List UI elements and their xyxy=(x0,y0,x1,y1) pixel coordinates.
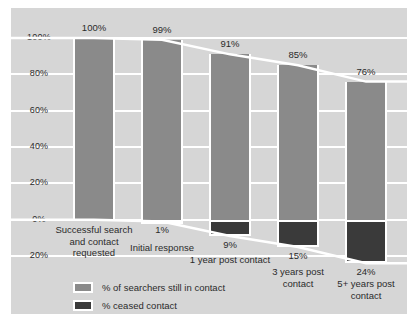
legend-label: % of searchers still in contact xyxy=(102,282,225,293)
bar-segment-ceased-contact[interactable] xyxy=(277,220,319,247)
legend-swatch xyxy=(73,300,93,311)
legend-label: % ceased contact xyxy=(102,300,177,311)
bar-value-label-in-contact: 100% xyxy=(64,22,124,33)
bar-value-label-ceased-contact: 1% xyxy=(132,224,192,235)
bar-segment-in-contact[interactable] xyxy=(209,54,251,219)
x-axis-category-label: Initial response xyxy=(120,242,204,254)
chart-legend: % of searchers still in contact% ceased … xyxy=(73,280,373,316)
bar-segment-ceased-contact[interactable] xyxy=(141,220,183,224)
bar-segment-ceased-contact[interactable] xyxy=(209,220,251,236)
legend-item[interactable]: % ceased contact xyxy=(73,298,373,313)
legend-item[interactable]: % of searchers still in contact xyxy=(73,280,373,295)
bar-value-label-in-contact: 99% xyxy=(132,24,192,35)
y-axis-tick-label: 40% xyxy=(17,141,61,151)
bar-value-label-ceased-contact: 15% xyxy=(268,250,328,261)
bar-segment-ceased-contact[interactable] xyxy=(345,220,387,264)
bar-segment-in-contact[interactable] xyxy=(345,82,387,220)
legend-swatch xyxy=(73,282,93,293)
bar-segment-in-contact[interactable] xyxy=(141,40,183,220)
bar-segment-in-contact[interactable] xyxy=(277,65,319,219)
y-axis-tick-label: 80% xyxy=(17,68,61,78)
bar-value-label-in-contact: 85% xyxy=(268,49,328,60)
bar-value-label-ceased-contact: 24% xyxy=(336,266,396,277)
y-axis-tick-label: 20% xyxy=(17,177,61,187)
bar-value-label-in-contact: 76% xyxy=(336,66,396,77)
bar-value-label-in-contact: 91% xyxy=(200,38,260,49)
bar-value-label-ceased-contact: 9% xyxy=(200,239,260,250)
bar-segment-in-contact[interactable] xyxy=(73,38,115,220)
y-axis-tick-label: 0% xyxy=(17,214,61,224)
y-axis-tick-label: 60% xyxy=(17,105,61,115)
plot-area: 100%80%60%40%20%0%20%100%Successful sear… xyxy=(11,8,407,314)
chart-container: 100%80%60%40%20%0%20%100%Successful sear… xyxy=(11,8,407,314)
y-axis-tick-label: 100% xyxy=(17,32,61,42)
x-axis-category-label: 1 year post contact xyxy=(188,254,272,266)
